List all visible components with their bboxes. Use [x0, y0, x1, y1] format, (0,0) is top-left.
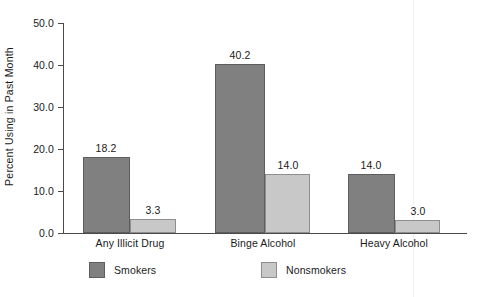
y-axis-title: Percent Using in Past Month — [0, 0, 18, 233]
x-category-label-binge-alcohol: Binge Alcohol — [231, 237, 296, 249]
y-tick-label-0: 0.0 — [20, 227, 54, 239]
bar-value-smokers-heavy-alcohol: 14.0 — [361, 159, 382, 171]
bar-value-nonsmokers-any-illicit-drug: 3.3 — [146, 204, 161, 216]
y-tick-mark-40 — [58, 65, 64, 66]
legend-swatch-nonsmokers-icon — [261, 262, 277, 278]
x-category-label-heavy-alcohol: Heavy Alcohol — [360, 237, 428, 249]
bar-value-nonsmokers-heavy-alcohol: 3.0 — [411, 205, 426, 217]
y-tick-mark-30 — [58, 107, 64, 108]
bar-value-smokers-any-illicit-drug: 18.2 — [96, 142, 117, 154]
bar-smokers-binge-alcohol[interactable] — [215, 64, 265, 233]
scan-artifact-line — [413, 0, 414, 297]
y-axis-line — [63, 23, 64, 234]
y-tick-label-50: 50.0 — [20, 17, 54, 29]
legend-swatch-smokers-icon — [89, 262, 105, 278]
y-tick-label-10: 10.0 — [20, 185, 54, 197]
legend-item-smokers[interactable]: Smokers — [89, 261, 156, 279]
bar-smokers-any-illicit-drug[interactable] — [83, 157, 130, 233]
legend-label-nonsmokers: Nonsmokers — [286, 264, 346, 276]
bar-nonsmokers-any-illicit-drug[interactable] — [130, 219, 176, 233]
y-tick-mark-50 — [58, 23, 64, 24]
y-tick-mark-10 — [58, 191, 64, 192]
legend-label-smokers: Smokers — [114, 264, 156, 276]
y-tick-mark-20 — [58, 149, 64, 150]
y-tick-label-40: 40.0 — [20, 59, 54, 71]
bar-nonsmokers-binge-alcohol[interactable] — [265, 174, 310, 233]
bar-value-smokers-binge-alcohol: 40.2 — [230, 49, 251, 61]
y-tick-label-20: 20.0 — [20, 143, 54, 155]
bar-nonsmokers-heavy-alcohol[interactable] — [395, 220, 440, 233]
x-axis-line — [63, 233, 467, 234]
bar-chart-figure: Percent Using in Past Month 50.0 40.0 30… — [0, 0, 480, 297]
legend-item-nonsmokers[interactable]: Nonsmokers — [261, 261, 346, 279]
bar-value-nonsmokers-binge-alcohol: 14.0 — [278, 159, 299, 171]
x-category-label-any-illicit-drug: Any Illicit Drug — [96, 237, 165, 249]
y-tick-label-30: 30.0 — [20, 101, 54, 113]
bar-smokers-heavy-alcohol[interactable] — [348, 174, 395, 233]
